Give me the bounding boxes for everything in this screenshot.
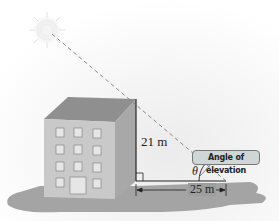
height-label: 21 m: [141, 134, 167, 150]
sun-icon: [29, 12, 65, 48]
building-door: [70, 177, 86, 194]
diagram-drawing: [0, 0, 279, 221]
distance-label: 25 m: [188, 183, 216, 196]
angle-of-elevation-callout: Angle of elevation: [192, 150, 260, 165]
building: [44, 97, 136, 199]
diagram: 21 m 25 m θ Angle of elevation: [0, 0, 279, 221]
angle-theta-label: θ: [192, 164, 198, 179]
